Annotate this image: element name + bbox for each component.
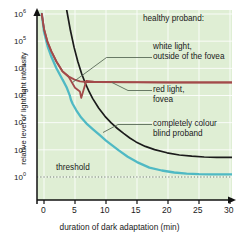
x-tick-label-20: 20	[162, 205, 171, 215]
annotation-colour-blind-line1: completely colour	[153, 119, 217, 128]
annotation-colour-blind-line2: blind proband	[153, 129, 203, 138]
y-axis-title: relative level of light/light intensity	[19, 34, 28, 184]
dark-adaptation-chart: 106 105 104 103 102 101 100 0 5 10 15 20…	[0, 0, 239, 237]
x-axis-title: duration of dark adaptation (min)	[0, 222, 239, 232]
x-tick-label-0: 0	[41, 205, 46, 215]
annotation-red-light-line1: red light,	[153, 85, 184, 94]
x-tick-label-30: 30	[224, 205, 233, 215]
y-tick-label-6: 106	[14, 8, 26, 19]
x-tick-label-25: 25	[193, 205, 202, 215]
y-tick-exp-6: 6	[23, 8, 26, 14]
annotation-white-light-line2: outside of the fovea	[153, 52, 224, 61]
annotation-white-light-line1: white light,	[153, 42, 192, 51]
x-tick-label-15: 15	[131, 205, 140, 215]
x-tick-label-10: 10	[100, 205, 109, 215]
annotation-red-light-line2: fovea	[153, 95, 173, 104]
x-tick-label-5: 5	[72, 205, 77, 215]
annotation-healthy-proband: healthy proband:	[143, 14, 204, 23]
threshold-label: threshold	[56, 163, 90, 172]
